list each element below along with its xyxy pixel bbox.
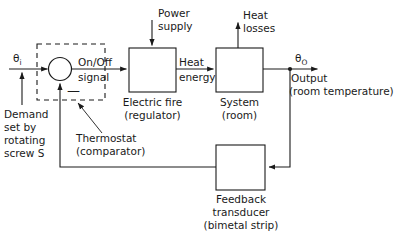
block-system[interactable] <box>216 48 263 92</box>
label-power-supply-line2: supply <box>158 20 193 32</box>
label-output-signal: θO <box>295 52 307 67</box>
label-output-line1: Output <box>291 72 327 84</box>
block-diagram-canvas: θi — On/Off On/Off On/Off On/Off signal … <box>0 0 412 235</box>
label-feedback-line1: Feedback <box>216 193 267 205</box>
label-demand-line4: screw S <box>4 147 45 159</box>
label-power-supply-line1: Power <box>158 7 190 19</box>
label-heat-losses-line2: losses <box>243 22 275 34</box>
block-electric-fire[interactable] <box>129 48 176 92</box>
label-onoff-visible-2: signal <box>78 71 109 83</box>
label-feedback-line3: (bimetal strip) <box>204 219 279 231</box>
label-demand-line2: set by <box>4 121 36 133</box>
wire-output-to-feedback-transducer <box>269 69 290 167</box>
label-system-line1: System <box>220 96 259 108</box>
label-system-line2: (room) <box>222 109 257 121</box>
label-electric-fire-line1: Electric fire <box>123 96 182 108</box>
label-heat-energy-line2: energy <box>179 71 216 83</box>
label-negative-sign: — <box>67 83 80 98</box>
label-thermostat-line1: Thermostat <box>75 132 136 144</box>
leader-thermostat <box>78 103 102 133</box>
label-input-signal: θi <box>13 52 22 67</box>
label-demand-line1: Demand <box>4 108 49 120</box>
label-heat-energy-line1: Heat <box>179 56 204 68</box>
label-demand-line3: rotating <box>4 134 45 146</box>
label-onoff-visible-1: On/Off <box>78 56 113 68</box>
label-heat-losses-line1: Heat <box>243 9 268 21</box>
label-thermostat-line2: (comparator) <box>76 145 145 157</box>
label-electric-fire-line2: (regulator) <box>124 109 180 121</box>
block-feedback-transducer[interactable] <box>216 145 265 190</box>
label-feedback-line2: transducer <box>213 206 271 218</box>
control-system-diagram: θi — On/Off On/Off On/Off On/Off signal … <box>0 0 412 235</box>
label-output-line2: (room temperature) <box>289 85 394 97</box>
summing-junction-circle <box>49 58 72 81</box>
